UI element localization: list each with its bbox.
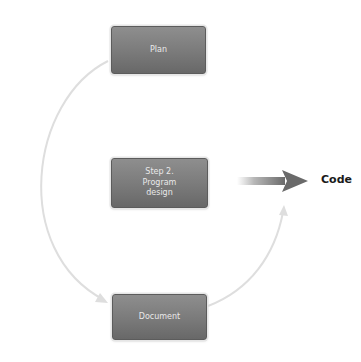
left-arc-arrow — [41, 61, 108, 303]
cycle-diagram: Plan Step 2. Program design Document Cod… — [0, 0, 361, 362]
output-code-label: Code — [321, 173, 352, 186]
node-program-design-label: Step 2. Program design — [143, 167, 177, 199]
node-plan: Plan — [111, 26, 206, 74]
node-plan-label: Plan — [150, 45, 167, 56]
node-document-label: Document — [139, 312, 180, 323]
node-document: Document — [112, 294, 207, 340]
right-arc-arrow — [208, 205, 288, 306]
main-arrow — [237, 170, 308, 192]
node-program-design: Step 2. Program design — [111, 158, 208, 208]
